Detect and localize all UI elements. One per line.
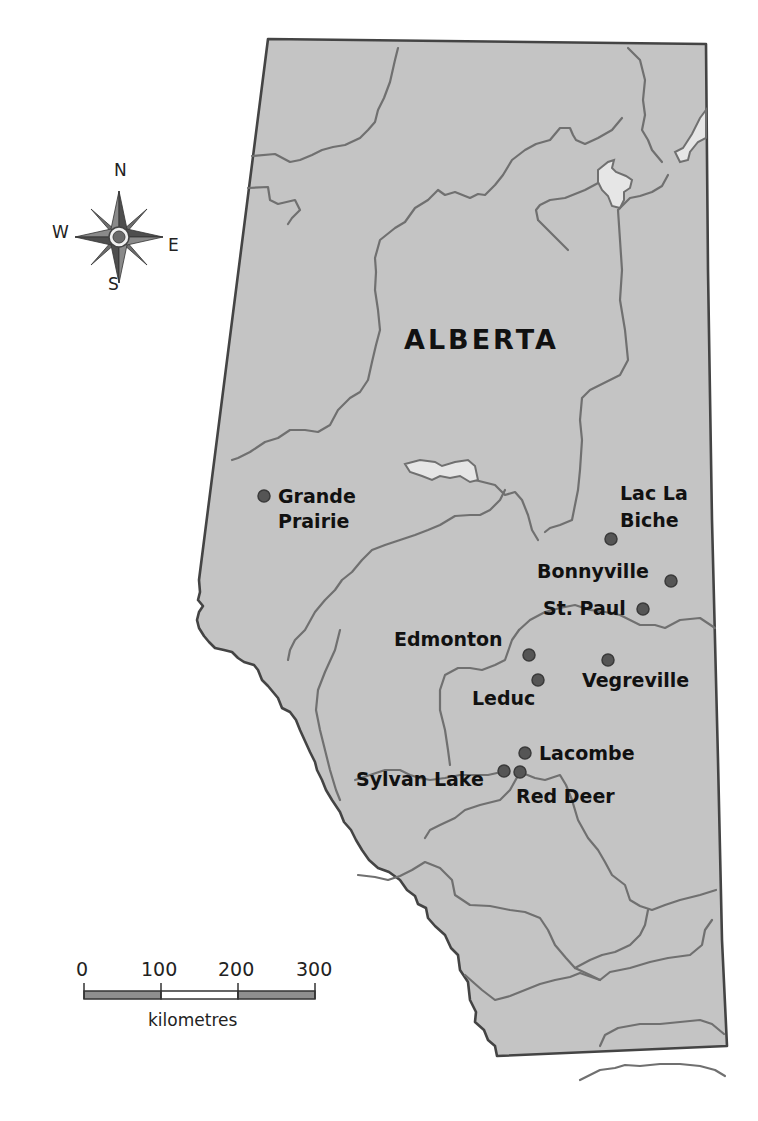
province-title: ALBERTA xyxy=(404,324,559,355)
city-label-line1: Grande xyxy=(278,485,356,507)
city-marker-icon xyxy=(602,654,614,666)
city-label: Bonnyville xyxy=(537,560,649,582)
city-label: Leduc xyxy=(472,687,535,709)
city-marker-icon xyxy=(498,765,510,777)
city-marker-icon xyxy=(532,674,544,686)
compass-north-label: N xyxy=(114,160,127,180)
province-outline xyxy=(197,39,727,1056)
city-label: Red Deer xyxy=(516,785,615,807)
compass-east-label: E xyxy=(168,235,179,255)
city-marker-icon xyxy=(519,747,531,759)
scale-tick-0: 0 xyxy=(76,958,88,980)
city-label-line2: Prairie xyxy=(278,510,349,532)
city-label: Edmonton xyxy=(394,628,503,650)
city-marker-icon xyxy=(523,649,535,661)
city-marker-icon xyxy=(637,603,649,615)
city-label: Vegreville xyxy=(582,669,689,691)
city-marker-icon xyxy=(258,490,270,502)
city-label: Sylvan Lake xyxy=(356,768,484,790)
compass-star-icon xyxy=(75,191,163,283)
alberta-map: ALBERTA Grande Prairie Lac La Biche Bonn… xyxy=(0,0,758,1121)
city-marker-icon xyxy=(605,533,617,545)
city-label: St. Paul xyxy=(543,597,626,619)
scale-tick-100: 100 xyxy=(141,958,177,980)
compass-rose: N W E S xyxy=(52,160,179,294)
city-label: Lacombe xyxy=(539,742,635,764)
city-marker-icon xyxy=(665,575,677,587)
compass-south-label: S xyxy=(108,274,119,294)
scale-tick-200: 200 xyxy=(218,958,254,980)
scale-bar: 0 100 200 300 kilometres xyxy=(76,958,332,1030)
compass-west-label: W xyxy=(52,222,69,242)
city-label-line2: Biche xyxy=(620,509,679,531)
city-marker-icon xyxy=(514,766,526,778)
scale-tick-300: 300 xyxy=(296,958,332,980)
scale-unit-label: kilometres xyxy=(148,1010,237,1030)
city-label-line1: Lac La xyxy=(620,482,688,504)
